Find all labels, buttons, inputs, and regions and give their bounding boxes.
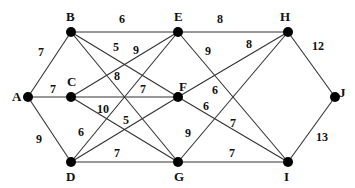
edge-weight-label: 9: [205, 44, 211, 58]
node-label: F: [179, 79, 187, 94]
edge-weight-label: 12: [312, 39, 324, 53]
edge-weight-label: 6: [119, 12, 125, 26]
node-label: J: [339, 85, 346, 100]
node-H: [283, 27, 293, 37]
edge-weight-label: 7: [50, 82, 56, 96]
edge-weight-label: 6: [212, 83, 218, 97]
edge-weight-label: 5: [123, 113, 129, 127]
node-B: [66, 27, 76, 37]
edge-weight-label: 8: [246, 37, 252, 51]
node-G: [173, 157, 183, 167]
node-label: G: [174, 169, 184, 184]
edge-weight-label: 8: [217, 12, 223, 26]
edge-weight-label: 6: [78, 125, 84, 139]
edge-weight-label: 10: [97, 102, 109, 116]
edge-weight-label: 5: [113, 40, 119, 54]
node-D: [66, 157, 76, 167]
edge-weight-label: 7: [114, 146, 120, 160]
edge-A-D: [28, 97, 71, 162]
edge-weight-label: 6: [203, 99, 209, 113]
edge-weight-label: 7: [230, 116, 236, 130]
node-label: B: [66, 9, 75, 24]
edge-weight-label: 7: [229, 146, 235, 160]
edge-weight-label: 7: [38, 45, 44, 59]
node-label: I: [284, 169, 289, 184]
graph-diagram: 7796589710657898667971213 ABCDEFGHIJ: [0, 0, 355, 188]
node-label: D: [66, 169, 75, 184]
edge-F-H: [178, 32, 288, 97]
node-C: [66, 92, 76, 102]
node-label: H: [280, 9, 290, 24]
nodes: [23, 27, 340, 167]
node-label: E: [174, 9, 183, 24]
node-I: [283, 157, 293, 167]
node-E: [173, 27, 183, 37]
node-A: [23, 92, 33, 102]
edge-weight-label: 8: [114, 69, 120, 83]
node-label: C: [67, 74, 76, 89]
node-label: A: [12, 89, 22, 104]
edge-weight-label: 9: [185, 126, 191, 140]
edge-weight-label: 9: [133, 43, 139, 57]
edge-weight-label: 7: [140, 82, 146, 96]
edge-weight-label: 13: [316, 130, 328, 144]
edge-weight-label: 9: [36, 132, 42, 146]
